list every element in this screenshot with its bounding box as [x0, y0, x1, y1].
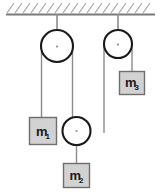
block-m2-subscript: 2 — [79, 176, 84, 185]
pulley-left-axle-dot — [56, 45, 58, 47]
pulley-right-axle-dot — [117, 43, 119, 45]
block-m2: m 2 — [64, 164, 90, 188]
pulley-middle-axle-dot — [75, 130, 77, 132]
block-m3: m 3 — [120, 72, 145, 95]
block-m1-subscript: 1 — [46, 132, 51, 141]
block-m3-subscript: 3 — [135, 83, 140, 92]
ceiling-hatching — [7, 3, 150, 13]
pulley-diagram-canvas: m 1 m 2 m 3 — [0, 0, 161, 192]
block-m1: m 1 — [30, 118, 57, 145]
pulley-diagram: m 1 m 2 m 3 — [0, 0, 161, 192]
